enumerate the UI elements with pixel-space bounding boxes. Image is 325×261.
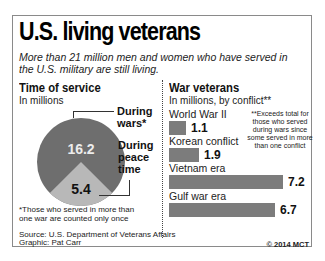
bar-value: 1.9	[204, 148, 221, 162]
wars-leader-line	[73, 111, 114, 118]
copyright: © 2014 MCT	[266, 240, 309, 249]
bar-label: Korean conflict	[169, 135, 238, 147]
war-veterans-subtitle: In millions, by conflict**	[169, 95, 271, 106]
war-veterans-side-note: **Exceeds total for those who served dur…	[246, 110, 314, 150]
bar-value: 6.7	[280, 203, 297, 217]
svg-text:5.4: 5.4	[71, 181, 91, 197]
time-of-service-subtitle: In millions	[19, 95, 63, 106]
bar	[169, 203, 275, 217]
bar-label: World War II	[169, 108, 227, 120]
bar	[169, 175, 283, 189]
time-of-service-title: Time of service	[19, 81, 101, 95]
bar-value: 7.2	[288, 175, 305, 189]
bar	[169, 121, 186, 135]
pie-label-peace: During peace time	[118, 139, 158, 175]
page-title: U.S. living veterans	[19, 17, 200, 46]
time-of-service-footnote: *Those who served in more than one war a…	[19, 205, 139, 223]
peace-leader-line	[99, 180, 130, 196]
page-subtitle: More than 21 million men and women who h…	[19, 52, 289, 75]
svg-text:16.2: 16.2	[67, 141, 94, 157]
source-credit: Source: U.S. Department of Veterans Affa…	[19, 231, 175, 247]
panel-divider	[162, 80, 163, 238]
bar	[169, 148, 199, 162]
bar-label: Gulf war era	[169, 190, 226, 202]
graphic-credit: Graphic: Pat Carr	[19, 239, 175, 247]
bar-label: Vietnam era	[169, 162, 225, 174]
bar-value: 1.1	[191, 121, 208, 135]
pie-label-wars: During wars*	[117, 105, 159, 129]
war-veterans-title: War veterans	[169, 81, 239, 95]
